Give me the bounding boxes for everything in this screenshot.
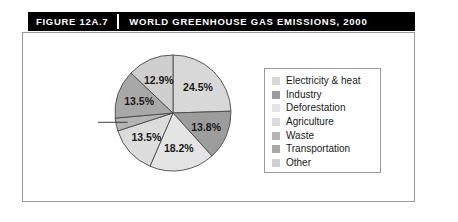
legend-swatch-icon: [272, 91, 280, 99]
pie-slice-label: 13.8%: [191, 121, 221, 133]
legend-item: Other: [272, 156, 380, 170]
legend-swatch-icon: [272, 132, 280, 140]
figure-header-bar: FIGURE 12A.7 WORLD GREENHOUSE GAS EMISSI…: [28, 12, 415, 31]
pie-slice-label: 18.2%: [164, 142, 194, 154]
legend-item: Deforestation: [272, 101, 380, 115]
chart-legend: Electricity & heatIndustryDeforestationA…: [264, 68, 381, 173]
legend-item-label: Other: [286, 158, 311, 168]
legend-item-label: Deforestation: [286, 103, 345, 113]
legend-item: Industry: [272, 88, 380, 102]
pie-slice-label: 13.5%: [124, 95, 154, 107]
legend-swatch-icon: [272, 118, 280, 126]
legend-item-label: Waste: [286, 131, 314, 141]
pie-chart-svg: 24.5%13.8%18.2%13.5%13.5%12.9% 3.6%: [98, 38, 248, 188]
legend-swatch-icon: [272, 145, 280, 153]
legend-item-label: Industry: [286, 90, 322, 100]
pie-slice-label: 24.5%: [183, 81, 213, 93]
legend-item: Agriculture: [272, 115, 380, 129]
pie-slice-label: 12.9%: [144, 74, 174, 86]
legend-item: Electricity & heat: [272, 74, 380, 88]
legend-swatch-icon: [272, 159, 280, 167]
legend-item: Waste: [272, 129, 380, 143]
pie-slice-label: 13.5%: [132, 131, 162, 143]
legend-item-label: Transportation: [286, 144, 350, 154]
pie-chart: 24.5%13.8%18.2%13.5%13.5%12.9% 3.6%: [98, 38, 248, 188]
legend-item: Transportation: [272, 142, 380, 156]
legend-item-label: Agriculture: [286, 117, 334, 127]
figure-number-label: FIGURE 12A.7: [28, 17, 117, 27]
legend-item-label: Electricity & heat: [286, 76, 360, 86]
figure-title-label: WORLD GREENHOUSE GAS EMISSIONS, 2000: [119, 17, 367, 27]
legend-swatch-icon: [272, 104, 280, 112]
legend-swatch-icon: [272, 77, 280, 85]
